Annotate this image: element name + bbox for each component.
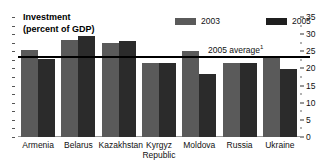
category-labels: ArmeniaBelarusKazakhstanKyrgyz RepublicM… [18,140,300,163]
y-tick-label: 10 [306,98,316,107]
y-axis: 05101520253035 [300,0,328,163]
bar-2003-ukraine[interactable] [263,56,280,137]
bar-group [139,17,179,137]
left-edge-tick [12,86,15,87]
bar-2003-moldova[interactable] [182,51,199,137]
left-edge-tick [12,17,15,18]
left-edge-tick [12,137,15,138]
bar-group [260,17,300,137]
category-label-moldova: Moldova [179,140,219,150]
left-edge-tick [12,94,15,95]
category-label-ukraine: Ukraine [260,140,300,150]
left-edge-tick [12,111,15,112]
bar-2003-kyrgyz-republic[interactable] [142,63,159,137]
left-edge-tick [12,34,15,35]
left-edge-tick [12,26,15,27]
average-line-label: 2005 average1 [208,43,263,55]
y-tick-label: 25 [306,47,316,56]
y-tick-mark [300,102,304,103]
y-tick-mark-minor [300,59,302,60]
bar-2005-moldova[interactable] [199,74,216,137]
y-tick-mark [300,119,304,120]
y-tick-mark-minor [300,111,302,112]
left-edge-tick [12,43,15,44]
bar-2005-russia[interactable] [240,63,257,137]
y-tick-label: 35 [306,13,316,22]
category-label-armenia: Armenia [18,140,58,150]
category-label-belarus: Belarus [58,140,98,150]
y-tick-label: 20 [306,64,316,73]
bar-2003-russia[interactable] [223,63,240,137]
left-edge-tick [12,51,15,52]
y-tick-label: 30 [306,30,316,39]
y-tick-mark [300,17,304,18]
bar-2005-belarus[interactable] [78,36,95,137]
average-line [18,56,310,58]
investment-bar-chart: Investment (percent of GDP) 2003 2005 20… [0,0,328,163]
left-edge-tick [12,68,15,69]
y-tick-mark-minor [300,94,302,95]
y-tick-mark [300,68,304,69]
bar-2005-ukraine[interactable] [280,69,297,137]
y-tick-mark-minor [300,77,302,78]
plot-area: 2005 average1 [18,17,300,137]
average-line-footnote-marker: 1 [260,44,263,50]
y-tick-mark [300,85,304,86]
y-tick-label: 0 [306,133,311,142]
left-edge-tick [12,103,15,104]
bar-group [99,17,139,137]
bar-group [219,17,259,137]
bar-2005-armenia[interactable] [38,59,55,137]
bar-group [58,17,98,137]
y-tick-mark-minor [300,42,302,43]
y-tick-label: 5 [306,116,311,125]
left-edge-tick [12,77,15,78]
left-edge-tick [12,128,15,129]
y-tick-mark [300,51,304,52]
bar-2003-belarus[interactable] [61,40,78,137]
bar-2005-kyrgyz-republic[interactable] [159,63,176,137]
y-tick-mark-minor [300,25,302,26]
bar-2003-armenia[interactable] [21,50,38,137]
y-tick-mark [300,34,304,35]
y-tick-mark-minor [300,128,302,129]
left-edge-tick [12,60,15,61]
bar-group [18,17,58,137]
y-tick-label: 15 [306,81,316,90]
bar-group [179,17,219,137]
category-label-kazakhstan: Kazakhstan [99,140,139,150]
left-edge-tick [12,120,15,121]
category-label-russia: Russia [219,140,259,150]
category-label-kyrgyz-republic: Kyrgyz Republic [139,140,179,160]
y-tick-mark [300,137,304,138]
